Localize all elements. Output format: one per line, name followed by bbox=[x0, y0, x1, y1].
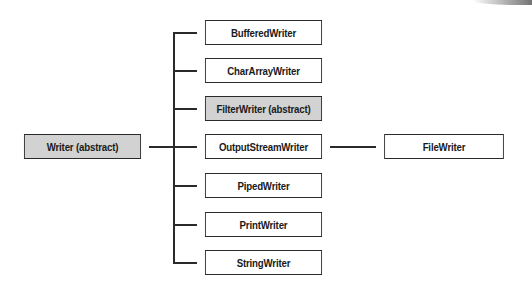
branch-filterwriter bbox=[173, 108, 197, 110]
branch-stringwriter bbox=[173, 262, 197, 264]
node-label: FileWriter bbox=[423, 141, 466, 153]
node-filterwriter-abstract: FilterWriter (abstract) bbox=[205, 96, 322, 121]
branch-outputstreamwriter bbox=[173, 146, 197, 148]
node-label: BufferedWriter bbox=[231, 27, 296, 39]
node-label: CharArrayWriter bbox=[227, 65, 300, 77]
node-outputstreamwriter: OutputStreamWriter bbox=[205, 134, 322, 159]
node-chararraywriter: CharArrayWriter bbox=[205, 58, 322, 83]
node-bufferedwriter: BufferedWriter bbox=[205, 20, 322, 45]
node-label: OutputStreamWriter bbox=[219, 141, 308, 153]
node-label: StringWriter bbox=[237, 257, 291, 269]
branch-pipedwriter bbox=[173, 185, 197, 187]
trunk-connector bbox=[173, 32, 175, 263]
page-curl-shadow bbox=[472, 0, 532, 5]
branch-printwriter bbox=[173, 224, 197, 226]
node-label: PrintWriter bbox=[240, 219, 288, 231]
node-pipedwriter: PipedWriter bbox=[205, 173, 322, 198]
filewriter-connector bbox=[330, 146, 376, 148]
node-stringwriter: StringWriter bbox=[205, 250, 322, 275]
node-label: PipedWriter bbox=[237, 180, 289, 192]
node-writer-abstract: Writer (abstract) bbox=[24, 134, 141, 159]
branch-chararraywriter bbox=[173, 70, 197, 72]
node-filewriter: FileWriter bbox=[384, 134, 504, 159]
node-printwriter: PrintWriter bbox=[205, 212, 322, 237]
node-label: FilterWriter (abstract) bbox=[216, 103, 310, 115]
root-connector bbox=[149, 146, 173, 148]
branch-bufferedwriter bbox=[173, 32, 197, 34]
node-label: Writer (abstract) bbox=[47, 141, 119, 153]
